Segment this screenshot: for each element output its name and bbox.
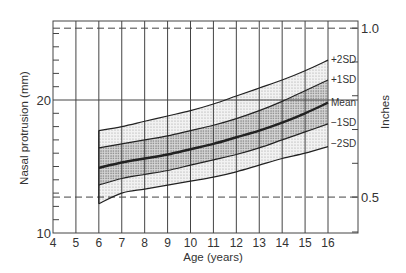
svg-text:8: 8: [141, 236, 148, 250]
svg-text:0.5: 0.5: [361, 190, 379, 205]
svg-text:15: 15: [298, 236, 312, 250]
x-axis-label: Age (years): [183, 251, 243, 263]
svg-text:5: 5: [73, 236, 80, 250]
legend-plus2sd: +2SD: [331, 54, 356, 65]
legend-minus2sd: −2SD: [331, 138, 356, 149]
svg-text:12: 12: [230, 236, 244, 250]
svg-text:13: 13: [253, 236, 267, 250]
svg-text:14: 14: [275, 236, 289, 250]
svg-text:16: 16: [321, 236, 335, 250]
svg-text:7: 7: [118, 236, 125, 250]
legend-plus1sd: +1SD: [331, 74, 356, 85]
y2-axis-label: Inches: [379, 95, 391, 129]
svg-text:6: 6: [95, 236, 102, 250]
svg-text:10: 10: [184, 236, 198, 250]
svg-text:11: 11: [207, 236, 220, 250]
legend-mean: Mean: [331, 97, 356, 108]
svg-text:20: 20: [37, 93, 51, 108]
nasal-protrusion-chart: 10200.51.045678910111213141516 Nasal pro…: [0, 0, 406, 273]
svg-text:1.0: 1.0: [361, 21, 379, 36]
svg-text:9: 9: [164, 236, 171, 250]
svg-text:4: 4: [50, 236, 57, 250]
legend-minus1sd: −1SD: [331, 117, 356, 128]
y-axis-label: Nasal protrusion (mm): [18, 71, 30, 185]
